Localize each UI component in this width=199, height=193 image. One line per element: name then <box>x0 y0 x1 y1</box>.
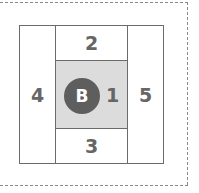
region-top-label: 2 <box>85 32 98 54</box>
region-right-label: 5 <box>139 84 152 106</box>
dashed-border-bottom <box>0 185 188 186</box>
marker-label: B <box>76 86 89 106</box>
marker-circle: B <box>64 78 100 114</box>
region-bottom: 3 <box>55 128 128 164</box>
region-left: 4 <box>19 25 56 164</box>
region-top: 2 <box>55 25 128 61</box>
region-right: 5 <box>127 25 164 164</box>
dashed-border-right <box>187 2 188 185</box>
region-bottom-label: 3 <box>85 135 98 157</box>
region-center-label: 1 <box>106 84 119 106</box>
region-left-label: 4 <box>31 84 44 106</box>
dashed-border-top <box>0 2 188 3</box>
